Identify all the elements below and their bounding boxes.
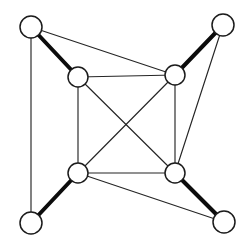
graph-edge <box>78 75 175 77</box>
graph-canvas <box>0 0 252 243</box>
graph-node <box>165 163 185 183</box>
edge-layer <box>31 25 224 223</box>
graph-node <box>212 14 234 36</box>
graph-node <box>68 67 88 87</box>
graph-node <box>165 65 185 85</box>
graph-node <box>20 16 42 38</box>
graph-node <box>213 211 235 233</box>
graph-node <box>68 163 88 183</box>
graph-figure <box>0 0 252 243</box>
graph-node <box>20 212 42 234</box>
